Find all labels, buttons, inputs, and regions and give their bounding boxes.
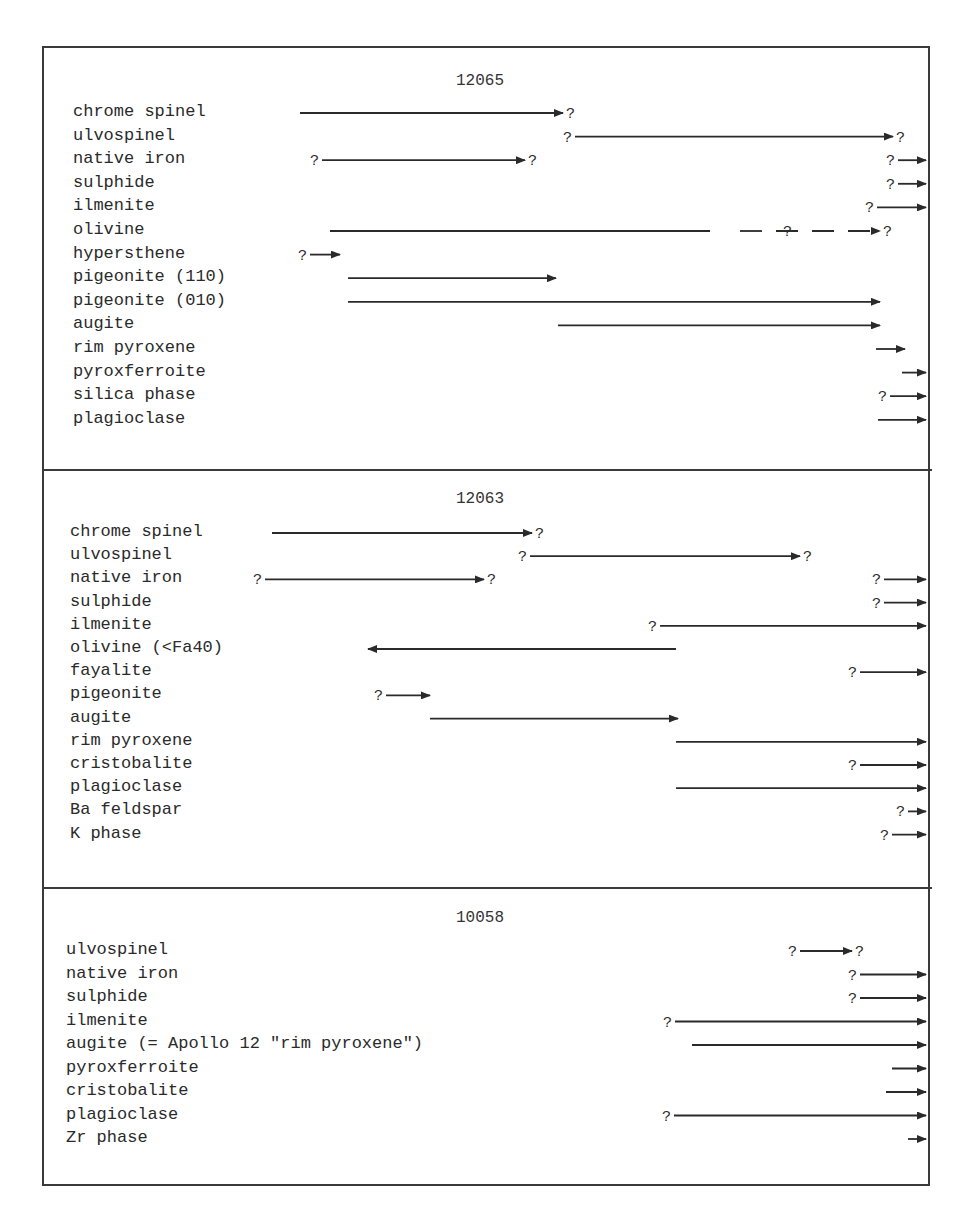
uncertain-marker: ? [886, 153, 895, 170]
uncertain-marker: ? [662, 1109, 671, 1126]
uncertain-marker: ? [253, 572, 262, 589]
uncertain-marker: ? [535, 526, 544, 543]
uncertain-marker: ? [310, 153, 319, 170]
uncertain-marker: ? [563, 130, 572, 147]
uncertain-marker: ? [896, 804, 905, 821]
uncertain-marker: ? [783, 224, 792, 241]
uncertain-marker: ? [663, 1015, 672, 1032]
uncertain-marker: ? [886, 177, 895, 194]
uncertain-marker: ? [872, 596, 881, 613]
uncertain-marker: ? [528, 153, 537, 170]
uncertain-marker: ? [848, 968, 857, 985]
arrow-layer: ??????????????????????????????? [0, 0, 975, 1218]
uncertain-marker: ? [848, 991, 857, 1008]
uncertain-marker: ? [848, 758, 857, 775]
uncertain-marker: ? [374, 688, 383, 705]
uncertain-marker: ? [855, 944, 864, 961]
uncertain-marker: ? [803, 549, 812, 566]
uncertain-marker: ? [883, 224, 892, 241]
uncertain-marker: ? [518, 549, 527, 566]
uncertain-marker: ? [648, 619, 657, 636]
uncertain-marker: ? [872, 572, 881, 589]
uncertain-marker: ? [487, 572, 496, 589]
uncertain-marker: ? [896, 130, 905, 147]
uncertain-marker: ? [788, 944, 797, 961]
uncertain-marker: ? [865, 200, 874, 217]
uncertain-marker: ? [566, 106, 575, 123]
uncertain-marker: ? [880, 828, 889, 845]
uncertain-marker: ? [878, 389, 887, 406]
uncertain-marker: ? [848, 665, 857, 682]
uncertain-marker: ? [298, 248, 307, 265]
